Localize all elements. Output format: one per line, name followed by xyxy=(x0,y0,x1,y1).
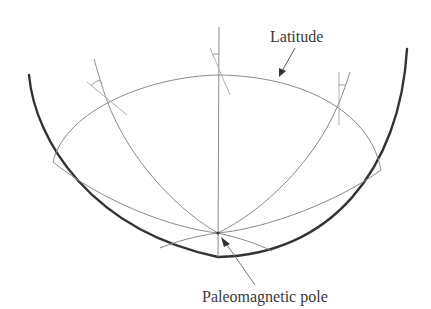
central-tangent-line xyxy=(210,48,230,95)
pole-point xyxy=(216,231,219,234)
left-meridian xyxy=(94,59,218,233)
pole-label: Paleomagnetic pole xyxy=(202,288,328,306)
right-meridian xyxy=(218,72,350,233)
latitude-arrow-shaft xyxy=(281,48,295,73)
latitude-label: Latitude xyxy=(270,28,323,45)
left-tangent-line xyxy=(87,82,127,115)
central-meridian xyxy=(218,27,219,257)
latitude-circle xyxy=(53,75,381,170)
latitude-circle-lower xyxy=(53,162,381,233)
pole-arrow-head xyxy=(221,237,230,247)
great-circle-lower-left xyxy=(160,233,218,248)
pole-arrow-shaft xyxy=(225,242,255,285)
paleomagnetic-pole-diagram: Latitude Paleomagnetic pole xyxy=(0,0,431,309)
